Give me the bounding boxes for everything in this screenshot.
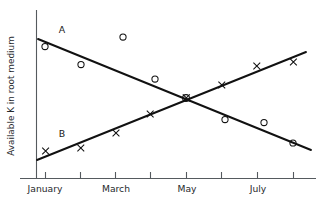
series-a-point bbox=[42, 43, 48, 49]
series-b-point bbox=[113, 130, 120, 137]
series-b-point bbox=[253, 63, 260, 70]
series-a-point bbox=[152, 76, 158, 82]
x-axis-group bbox=[20, 172, 316, 179]
series-a-trendline-group bbox=[38, 39, 311, 150]
series-a-trendline bbox=[38, 39, 311, 150]
x-tick-label-march: March bbox=[102, 183, 130, 194]
x-tick-label-july: July bbox=[249, 183, 267, 194]
series-b-label: B bbox=[59, 128, 65, 139]
x-tick-label-may: May bbox=[178, 183, 198, 194]
series-a-point bbox=[222, 116, 228, 122]
series-a-label: A bbox=[59, 24, 66, 35]
series-b-point bbox=[77, 145, 84, 152]
series-b-point bbox=[290, 59, 297, 66]
series-a-point bbox=[120, 34, 126, 40]
y-axis-label: Available K in root medium bbox=[6, 36, 16, 156]
chart-figure: A B January March May July Available K i… bbox=[0, 0, 326, 206]
series-b-trendline-group bbox=[37, 52, 306, 160]
series-a-point bbox=[261, 119, 267, 125]
series-b-point bbox=[42, 148, 49, 155]
chart-canvas: A B January March May July Available K i… bbox=[0, 0, 326, 206]
x-tick-label-january: January bbox=[27, 183, 63, 194]
series-b-trendline bbox=[37, 52, 306, 160]
series-a-point bbox=[78, 61, 84, 67]
